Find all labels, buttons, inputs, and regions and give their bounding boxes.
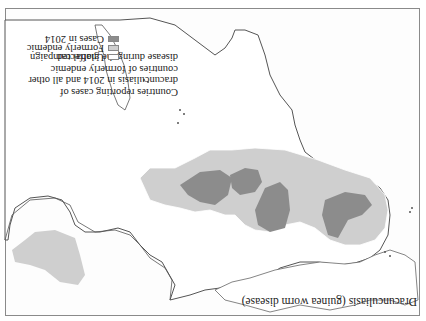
island (409, 211, 411, 213)
legend-swatch-cases-2014 (108, 36, 119, 42)
island (183, 113, 185, 115)
legend-item-cases-2014: Cases in 2014 (28, 34, 128, 44)
island (177, 122, 179, 124)
island (389, 255, 391, 257)
island (179, 109, 181, 111)
map-title: Dracunculiasis (guinea worm disease) (232, 295, 417, 308)
island (411, 207, 413, 209)
legend-label: Cases in 2014 (28, 34, 104, 44)
formerly-endemic-yemen (12, 230, 85, 285)
legend-swatch-formerly-endemic (108, 45, 119, 51)
legend-swatch-unaffected (108, 54, 119, 60)
island (384, 251, 386, 253)
